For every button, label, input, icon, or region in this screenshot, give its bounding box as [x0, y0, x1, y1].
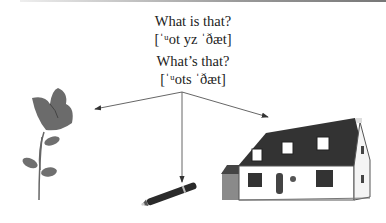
arrow-to-house — [182, 92, 268, 117]
rose-icon — [21, 88, 73, 200]
house-icon — [221, 118, 370, 200]
arrow-to-rose — [95, 92, 182, 109]
fountain-pen-icon — [140, 182, 197, 208]
illustration-canvas — [0, 0, 386, 223]
